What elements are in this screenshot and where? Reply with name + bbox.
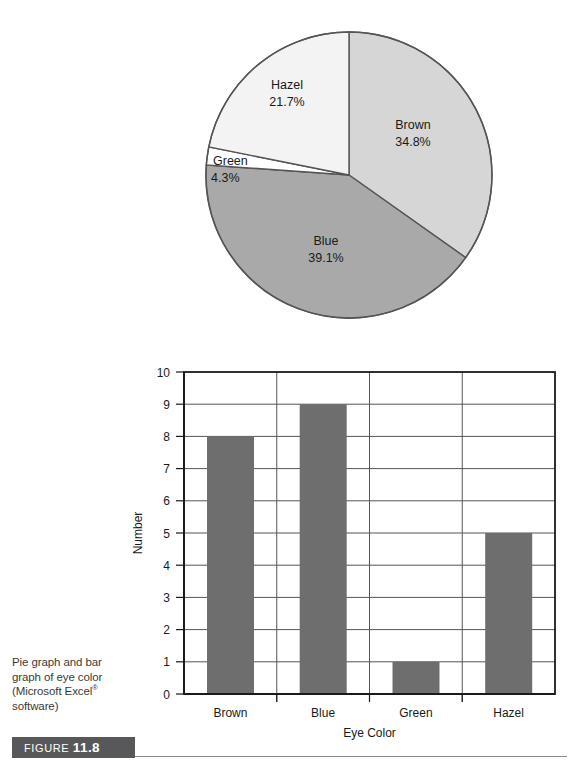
y-tick-label-9: 9 — [163, 398, 170, 412]
figure-caption: Pie graph and bar graph of eye color (Mi… — [12, 655, 140, 713]
x-category-label-blue: Blue — [311, 706, 335, 720]
y-tick-label-0: 0 — [163, 688, 170, 702]
y-tick-label-2: 2 — [163, 623, 170, 637]
bar-hazel[interactable] — [485, 533, 532, 694]
y-tick-label-4: 4 — [163, 559, 170, 573]
pie-label-green-percent: 4.3% — [211, 171, 240, 185]
figure-banner-word: FIGURE — [24, 742, 69, 754]
pie-label-brown-name: Brown — [395, 118, 430, 132]
pie-chart-figure: Brown 34.8% Blue 39.1% Green 4.3% Hazel … — [0, 0, 579, 345]
figure-banner: FIGURE 11.8 — [12, 737, 135, 758]
y-tick-label-10: 10 — [157, 366, 171, 380]
pie-chart-svg: Brown 34.8% Blue 39.1% Green 4.3% Hazel … — [0, 0, 579, 345]
caption-line-2: graph of eye color — [12, 671, 102, 683]
registered-trademark-icon: ® — [92, 683, 97, 692]
figure-banner-row: FIGURE 11.8 — [0, 737, 579, 761]
y-axis-ticks — [176, 372, 184, 694]
bar-brown[interactable] — [207, 436, 254, 694]
y-tick-label-8: 8 — [163, 430, 170, 444]
y-axis-title: Number — [131, 512, 145, 555]
figure-banner-label: FIGURE 11.8 — [24, 740, 100, 755]
y-tick-label-6: 6 — [163, 494, 170, 508]
pie-label-blue-percent: 39.1% — [308, 251, 343, 265]
y-tick-label-5: 5 — [163, 527, 170, 541]
pie-label-hazel-percent: 21.7% — [269, 95, 304, 109]
x-category-label-brown: Brown — [213, 706, 247, 720]
caption-line-4: software) — [12, 700, 58, 712]
figure-caption-text: Pie graph and bar graph of eye color (Mi… — [12, 655, 140, 713]
pie-label-blue-name: Blue — [313, 234, 338, 248]
figure-banner-number: 11.8 — [73, 740, 100, 755]
y-tick-label-7: 7 — [163, 462, 170, 476]
x-category-label-green: Green — [399, 706, 432, 720]
x-category-label-hazel: Hazel — [493, 706, 524, 720]
figure-divider-rule — [135, 756, 567, 757]
pie-label-green-name: Green — [213, 154, 248, 168]
bar-blue[interactable] — [300, 404, 347, 694]
y-tick-label-1: 1 — [163, 655, 170, 669]
x-axis-ticks — [277, 694, 463, 702]
caption-line-1: Pie graph and bar — [12, 656, 102, 668]
pie-label-hazel-name: Hazel — [271, 78, 303, 92]
pie-label-brown-percent: 34.8% — [395, 135, 430, 149]
caption-line-3: (Microsoft Excel — [12, 685, 92, 697]
y-tick-label-3: 3 — [163, 591, 170, 605]
bar-green[interactable] — [393, 662, 440, 694]
